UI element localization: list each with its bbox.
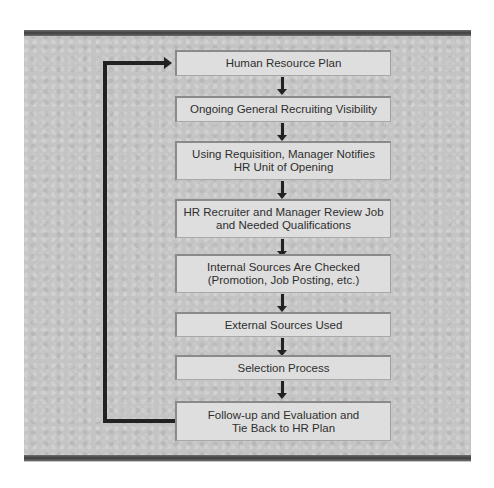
- step-label: Follow-up and Evaluation and Tie Back to…: [208, 409, 360, 435]
- arrow-down-icon: [281, 181, 284, 194]
- arrow-down-icon: [281, 338, 284, 351]
- step-internal-sources: Internal Sources Are Checked (Promotion,…: [175, 254, 391, 293]
- top-border-bar: [24, 30, 471, 36]
- feedback-loop-base-line: [103, 419, 175, 423]
- step-label: Selection Process: [237, 362, 329, 375]
- step-label: Internal Sources Are Checked (Promotion,…: [207, 261, 360, 287]
- step-label: External Sources Used: [225, 319, 343, 332]
- feedback-arrow-right-icon: [103, 61, 165, 65]
- arrow-down-icon: [281, 294, 284, 307]
- step-manager-notifies-hr: Using Requisition, Manager Notifies HR U…: [175, 141, 391, 180]
- feedback-loop-line: [103, 61, 107, 423]
- step-label: Using Requisition, Manager Notifies HR U…: [192, 148, 375, 174]
- step-follow-up-evaluation: Follow-up and Evaluation and Tie Back to…: [175, 401, 391, 441]
- step-ongoing-recruiting-visibility: Ongoing General Recruiting Visibility: [175, 96, 391, 122]
- diagram-background-panel: [24, 30, 471, 462]
- step-selection-process: Selection Process: [175, 355, 391, 380]
- step-review-job-qualifications: HR Recruiter and Manager Review Job and …: [175, 199, 391, 238]
- arrow-down-icon: [281, 77, 284, 90]
- step-label: Ongoing General Recruiting Visibility: [190, 103, 377, 116]
- bottom-border-bar: [24, 455, 471, 461]
- step-label: Human Resource Plan: [226, 57, 342, 70]
- arrow-down-icon: [281, 381, 284, 394]
- arrow-down-icon: [281, 123, 284, 136]
- step-external-sources: External Sources Used: [175, 312, 391, 337]
- arrow-down-icon: [281, 239, 284, 252]
- step-label: HR Recruiter and Manager Review Job and …: [183, 206, 383, 232]
- step-human-resource-plan: Human Resource Plan: [175, 50, 391, 76]
